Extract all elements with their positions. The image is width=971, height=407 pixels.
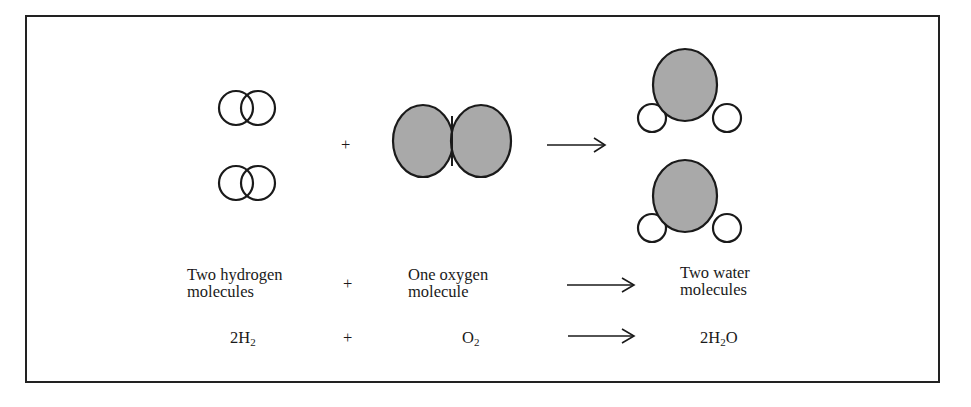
label-line: One oxygen <box>408 266 488 283</box>
oxygen-molecule <box>393 105 511 177</box>
element: O <box>726 328 738 347</box>
formula-oxygen: O2 <box>462 329 479 346</box>
element: O <box>462 328 474 347</box>
label-arrow-icon <box>567 278 634 292</box>
label-line: molecule <box>408 283 488 300</box>
element: H <box>708 328 720 347</box>
subscript: 2 <box>474 336 480 348</box>
label-line: Two hydrogen <box>187 266 283 283</box>
subscript: 2 <box>250 336 256 348</box>
reaction-arrow-icon <box>547 138 605 152</box>
label-line: molecules <box>680 281 750 298</box>
product-label-water: Two water molecules <box>680 264 750 298</box>
plus-sign: + <box>341 136 350 153</box>
molecule-illustration <box>0 0 971 407</box>
hydrogen-molecule-bottom <box>219 166 275 200</box>
plus-sign: + <box>343 275 352 292</box>
coefficient: 2 <box>700 328 708 347</box>
reactant-label-oxygen: One oxygen molecule <box>408 266 488 300</box>
formula-hydrogen: 2H2 <box>230 329 256 346</box>
formula-arrow-icon <box>568 329 634 343</box>
label-line: molecules <box>187 283 283 300</box>
water-molecule-top <box>638 49 741 132</box>
formula-water: 2H2O <box>700 329 738 346</box>
plus-sign: + <box>343 329 352 346</box>
coefficient: 2 <box>230 328 238 347</box>
hydrogen-molecule-top <box>219 91 275 125</box>
water-molecule-bottom <box>638 160 741 242</box>
label-line: Two water <box>680 264 750 281</box>
element: H <box>238 328 250 347</box>
reactant-label-hydrogen: Two hydrogen molecules <box>187 266 283 300</box>
